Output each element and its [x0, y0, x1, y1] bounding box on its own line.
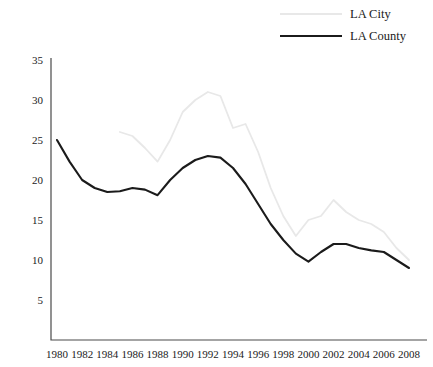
- line-chart: LA City LA County 5101520253035 19801982…: [0, 0, 433, 367]
- series-line-la-county: [57, 140, 409, 268]
- x-axis-tick-label: 1992: [197, 348, 219, 360]
- x-axis-tick-label: 2006: [373, 348, 396, 360]
- y-axis-tick-label: 20: [32, 174, 44, 186]
- series-line-la-city: [120, 92, 409, 260]
- x-axis-tick-label: 1982: [71, 348, 93, 360]
- x-axis-tick-label: 2002: [323, 348, 345, 360]
- x-axis-tick-label: 1994: [222, 348, 245, 360]
- y-axis-tick-label: 15: [32, 214, 44, 226]
- y-axis-tick-label: 25: [32, 134, 44, 146]
- x-axis-tick-label: 1980: [46, 348, 69, 360]
- axis-lines: [51, 58, 427, 340]
- x-axis-tick-label: 1990: [172, 348, 195, 360]
- y-axis-ticks: 5101520253035: [32, 54, 44, 306]
- x-axis-tick-label: 2004: [348, 348, 371, 360]
- x-axis-tick-label: 2000: [297, 348, 320, 360]
- x-axis-tick-label: 1996: [247, 348, 270, 360]
- x-axis-tick-label: 1984: [96, 348, 119, 360]
- y-axis-tick-label: 10: [32, 254, 44, 266]
- y-axis-tick-label: 35: [32, 54, 44, 66]
- x-axis-tick-label: 1988: [147, 348, 170, 360]
- y-axis-tick-label: 5: [38, 294, 44, 306]
- x-axis-tick-label: 1986: [121, 348, 144, 360]
- plot-area: 5101520253035 19801982198419861988199019…: [0, 0, 433, 367]
- series-layer: [57, 92, 409, 268]
- y-axis-tick-label: 30: [32, 94, 44, 106]
- x-axis-tick-label: 1998: [272, 348, 295, 360]
- x-axis-tick-label: 2008: [398, 348, 421, 360]
- x-axis-ticks: 1980198219841986198819901992199419961998…: [46, 348, 421, 360]
